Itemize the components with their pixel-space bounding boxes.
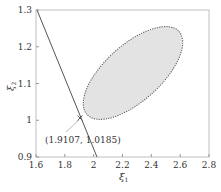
- y-tick-label: 1.2: [18, 42, 32, 52]
- x-tick-label: 2.4: [144, 160, 159, 170]
- x-tick-label: 2.2: [115, 160, 129, 170]
- x-tick-label: 2.8: [202, 160, 217, 170]
- chart-canvas: (1.9107, 1.0185) 0.9 1 1.1 1.2 1.3 1.6 1…: [0, 0, 221, 192]
- y-tick-label: 1.1: [18, 79, 32, 89]
- x-tick-label: 1.6: [29, 160, 44, 170]
- x-tick-label: 1.8: [58, 160, 73, 170]
- x-tick-label: 2: [91, 160, 97, 170]
- y-tick-label: 1: [26, 115, 32, 125]
- x-axis-label: ξ 1: [119, 171, 128, 183]
- y-axis-label: ξ 2: [5, 82, 17, 92]
- annotation-text: (1.9107, 1.0185): [45, 135, 121, 145]
- svg-text:2: 2: [10, 82, 17, 86]
- svg-text:1: 1: [125, 176, 129, 183]
- y-tick-label: 1.3: [18, 5, 33, 15]
- x-tick-label: 2.6: [173, 160, 188, 170]
